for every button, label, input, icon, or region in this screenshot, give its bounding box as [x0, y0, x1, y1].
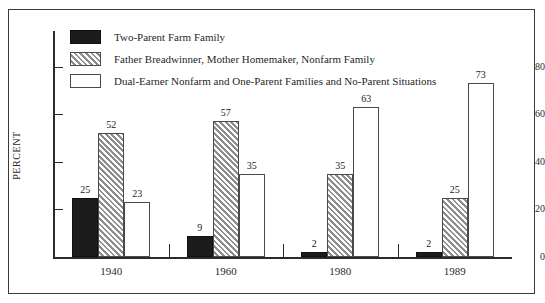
bar: [327, 174, 353, 257]
bar-value-label: 57: [206, 108, 246, 118]
bar: [301, 252, 327, 257]
bar: [353, 107, 379, 257]
y-tick-mark: [55, 257, 63, 258]
bar: [239, 174, 265, 257]
y-tick-label: 80: [499, 62, 545, 72]
bar-value-label: 35: [232, 161, 272, 171]
bar: [187, 236, 213, 257]
y-axis-line: [53, 31, 55, 259]
y-axis-title: PERCENT: [11, 116, 22, 196]
x-tick-label: 1960: [186, 266, 266, 277]
bar-value-label: 63: [346, 94, 386, 104]
y-tick-label: 20: [499, 204, 545, 214]
y-tick-mark: [55, 114, 63, 115]
legend-swatch-icon: [70, 30, 101, 44]
x-tick-label: 1940: [71, 266, 151, 277]
bar: [213, 121, 239, 257]
y-tick-label: 60: [499, 109, 545, 119]
x-tick-label: 1989: [415, 266, 495, 277]
bar-value-label: 23: [117, 189, 157, 199]
bar: [468, 83, 494, 257]
legend-swatch-icon: [70, 52, 101, 66]
x-axis-group-separator: [283, 244, 284, 258]
y-tick-mark: [55, 209, 63, 210]
bar-value-label: 52: [91, 120, 131, 130]
y-tick-label: 40: [499, 157, 545, 167]
legend-item-label: Two-Parent Farm Family: [114, 31, 225, 44]
bar: [124, 202, 150, 257]
bar: [442, 198, 468, 257]
legend-swatch-icon: [70, 74, 101, 88]
x-axis-group-separator: [169, 244, 170, 258]
legend-item-label: Dual-Earner Nonfarm and One-Parent Famil…: [114, 75, 436, 88]
bar-chart: PERCENT 020406080 255223957352356322573 …: [0, 0, 545, 303]
x-tick-label: 1980: [300, 266, 380, 277]
bar-value-label: 73: [461, 70, 501, 80]
bar: [72, 198, 98, 257]
x-axis-group-separator: [398, 244, 399, 258]
legend-item-label: Father Breadwinner, Mother Homemaker, No…: [114, 53, 375, 66]
y-tick-mark: [55, 67, 63, 68]
bar: [416, 252, 442, 257]
y-tick-label: 0: [499, 252, 545, 262]
y-tick-mark: [55, 162, 63, 163]
